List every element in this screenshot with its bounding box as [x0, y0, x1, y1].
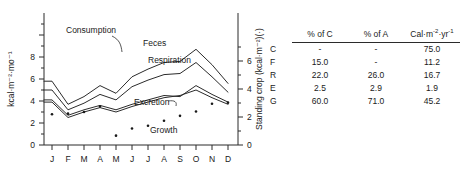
right-tick-label-6: 6: [247, 56, 252, 66]
month-label-mar: M: [80, 154, 87, 164]
table-row: R22.026.016.7: [268, 69, 460, 82]
left-tick-label-2: 2: [30, 118, 35, 128]
data-point: [99, 105, 102, 108]
month-label-oct: O: [193, 154, 200, 164]
left-tick-marks: [39, 24, 44, 145]
cell-pct-of-a: 71.0: [348, 95, 404, 108]
month-label-may: M: [112, 154, 119, 164]
left-tick-label-8: 8: [30, 52, 35, 62]
table-row: G60.071.045.2: [268, 95, 460, 108]
row-label: E: [268, 82, 292, 95]
data-point: [83, 111, 86, 114]
table-row: C--75.0: [268, 43, 460, 57]
curve-label-consumption: Consumption: [66, 25, 116, 35]
right-tick-labels: 0 2 4 6: [247, 56, 252, 150]
budget-table: % of C % of A Cal·m-2·yr-1 C--75.0F15.0-…: [268, 28, 460, 108]
data-point: [115, 134, 118, 137]
cell-cal: 45.2: [404, 95, 460, 108]
data-point: [131, 127, 134, 130]
row-label: R: [268, 69, 292, 82]
left-tick-labels: 0 2 4 6 8: [30, 52, 35, 150]
header-pct-of-c: % of C: [292, 28, 348, 43]
energy-budget-table: % of C % of A Cal·m-2·yr-1 C--75.0F15.0-…: [268, 28, 460, 108]
row-label: C: [268, 43, 292, 57]
row-label: G: [268, 95, 292, 108]
month-label-feb: F: [65, 154, 70, 164]
data-point: [179, 115, 182, 118]
cell-pct-of-a: 26.0: [348, 69, 404, 82]
cell-cal: 75.0: [404, 43, 460, 57]
row-label: F: [268, 56, 292, 69]
month-label-jun: J: [130, 154, 134, 164]
month-labels: J F M A M J J A S O N D: [50, 154, 231, 164]
month-label-nov: N: [209, 154, 215, 164]
month-label-sep: S: [177, 154, 183, 164]
curve-label-feces: Feces: [143, 38, 166, 48]
right-tick-label-2: 2: [247, 112, 252, 122]
left-tick-label-6: 6: [30, 74, 35, 84]
table-body: C--75.0F15.0-11.2R22.026.016.7E2.52.91.9…: [268, 43, 460, 109]
header-rowlabel: [268, 28, 292, 43]
data-point: [147, 124, 150, 127]
cell-pct-of-c: 2.5: [292, 82, 348, 95]
header-pct-of-a: % of A: [348, 28, 404, 43]
right-axis-title: Standing crop (kcal·m⁻²)(·): [254, 28, 264, 130]
month-label-dec: D: [225, 154, 231, 164]
cell-pct-of-c: -: [292, 43, 348, 57]
cell-pct-of-c: 15.0: [292, 56, 348, 69]
leader-consumption: [112, 36, 122, 52]
cell-pct-of-c: 60.0: [292, 95, 348, 108]
curve-label-excretion: Excretion: [134, 97, 170, 107]
cell-cal: 16.7: [404, 69, 460, 82]
data-point: [195, 110, 198, 113]
curve-label-growth: Growth: [150, 125, 178, 135]
table-header-row: % of C % of A Cal·m-2·yr-1: [268, 28, 460, 43]
data-point: [67, 112, 70, 115]
chart-series-layer: [44, 49, 229, 137]
table-row: E2.52.91.9: [268, 82, 460, 95]
left-tick-label-4: 4: [30, 96, 35, 106]
cell-pct-of-c: 22.0: [292, 69, 348, 82]
table-row: F15.0-11.2: [268, 56, 460, 69]
month-label-jul: J: [146, 154, 150, 164]
right-tick-label-0: 0: [247, 140, 252, 150]
left-tick-label-0: 0: [30, 140, 35, 150]
month-label-apr: A: [97, 154, 103, 164]
left-axis-title: kcal·m⁻²·mo⁻¹: [6, 51, 16, 106]
cell-pct-of-a: -: [348, 56, 404, 69]
cell-cal: 1.9: [404, 82, 460, 95]
x-tick-marks: [52, 145, 228, 150]
data-point: [211, 102, 214, 105]
cell-pct-of-a: 2.9: [348, 82, 404, 95]
month-label-jan: J: [50, 154, 54, 164]
cell-pct-of-a: -: [348, 43, 404, 57]
data-point: [227, 101, 230, 104]
curve-label-respiration: Respiration: [148, 55, 191, 65]
cell-cal: 11.2: [404, 56, 460, 69]
month-label-aug: A: [161, 154, 167, 164]
right-tick-marks: [238, 47, 243, 145]
header-cal-m2-yr: Cal·m-2·yr-1: [404, 28, 460, 43]
data-point: [163, 120, 166, 123]
data-point: [51, 113, 54, 116]
right-tick-label-4: 4: [247, 84, 252, 94]
